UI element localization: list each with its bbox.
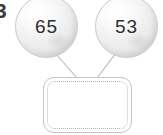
sum-answer-box[interactable] [43, 77, 132, 133]
right-addend-value: 53 [96, 16, 157, 38]
answer-box-dotted-border [47, 81, 128, 129]
left-addend-value: 65 [16, 16, 77, 38]
connector-left-line [56, 54, 77, 78]
connector-right-line [97, 53, 116, 78]
worksheet-item: 3 65 53 [0, 0, 163, 135]
